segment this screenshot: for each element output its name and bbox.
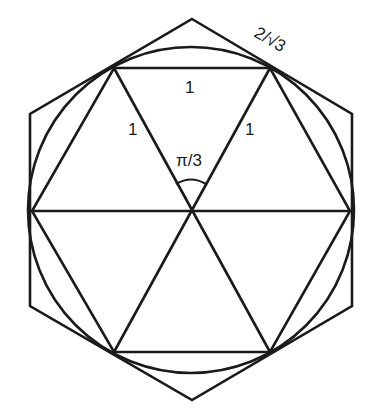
angle-arc [176,180,206,185]
label-outer-side: 2/√3 [251,23,289,56]
hexagon-diagram: 1 1 1 π/3 2/√3 [0,0,377,414]
label-top-side: 1 [185,78,194,97]
label-right-side: 1 [245,120,254,139]
label-angle: π/3 [176,151,202,170]
label-left-side: 1 [128,120,137,139]
